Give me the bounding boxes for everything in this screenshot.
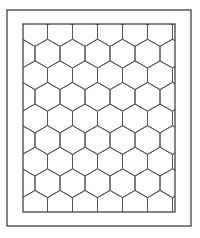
hexagon-cell bbox=[135, 126, 160, 155]
hexagon-cell bbox=[35, 212, 60, 238]
hexagon-cell bbox=[198, 61, 200, 90]
hexagon-cell bbox=[135, 0, 160, 25]
hexagon-cell bbox=[185, 39, 199, 68]
hexagon-cell bbox=[98, 190, 123, 219]
hexagon-tiling-figure bbox=[0, 0, 199, 238]
hexagon-cell bbox=[173, 147, 198, 176]
hexagon-cell bbox=[110, 82, 135, 111]
hexagon-cell bbox=[198, 104, 200, 133]
hexagon-cell bbox=[35, 0, 60, 25]
hexagon-cell bbox=[123, 18, 148, 47]
outer-frame bbox=[7, 10, 191, 226]
hexagon-cell bbox=[85, 0, 110, 25]
hexagon-cell bbox=[148, 190, 173, 219]
hexagon-cell bbox=[160, 169, 185, 198]
hexagon-cell bbox=[110, 126, 135, 155]
hexagon-cell bbox=[0, 190, 23, 219]
hexagon-cell bbox=[110, 169, 135, 198]
hexagon-cell bbox=[48, 147, 73, 176]
hexagon-cell bbox=[148, 234, 173, 238]
hexagon-cell bbox=[135, 82, 160, 111]
hexagon-cell bbox=[0, 234, 23, 238]
hexagon-cell bbox=[198, 190, 200, 219]
hexagon-cell bbox=[185, 212, 199, 238]
hexagon-cell bbox=[60, 169, 85, 198]
hexagon-cell bbox=[110, 39, 135, 68]
hexagon-cell bbox=[185, 169, 199, 198]
hexagon-cell bbox=[48, 18, 73, 47]
hexagon-cell bbox=[60, 0, 85, 25]
hexagon-cell bbox=[23, 61, 48, 90]
hexagon-cell bbox=[23, 147, 48, 176]
hexagon-cell bbox=[23, 190, 48, 219]
hexagon-cell bbox=[35, 126, 60, 155]
hexagon-cell bbox=[148, 61, 173, 90]
hexagon-cell bbox=[73, 61, 98, 90]
hexagon-cell bbox=[60, 212, 85, 238]
hexagon-cell bbox=[60, 82, 85, 111]
hexagon-cell bbox=[98, 147, 123, 176]
hexagon-cell bbox=[160, 126, 185, 155]
hexagon-cell bbox=[123, 234, 148, 238]
hexagon-cell bbox=[160, 0, 185, 25]
hexagon-cell bbox=[23, 234, 48, 238]
hexagon-cell bbox=[48, 190, 73, 219]
hexagon-cell bbox=[148, 147, 173, 176]
hexagon-cell bbox=[23, 18, 48, 47]
hexagon-cell bbox=[148, 104, 173, 133]
hexagon-cell bbox=[148, 18, 173, 47]
hexagon-cell bbox=[48, 234, 73, 238]
hexagon-cell bbox=[185, 82, 199, 111]
hexagon-cell bbox=[198, 147, 200, 176]
hexagon-grid bbox=[0, 0, 199, 238]
hexagon-cell bbox=[135, 39, 160, 68]
hexagon-cell bbox=[185, 0, 199, 25]
hexagon-cell bbox=[35, 82, 60, 111]
hexagon-cell bbox=[23, 104, 48, 133]
hexagon-cell bbox=[173, 190, 198, 219]
hexagon-cell bbox=[110, 212, 135, 238]
hexagon-cell bbox=[123, 104, 148, 133]
hexagon-cell bbox=[0, 104, 23, 133]
hexagon-cell bbox=[48, 61, 73, 90]
hexagon-cell bbox=[123, 61, 148, 90]
hexagon-cell bbox=[160, 212, 185, 238]
hexagon-cell bbox=[123, 147, 148, 176]
hexagon-cell bbox=[198, 18, 200, 47]
hexagon-cell bbox=[173, 234, 198, 238]
hexagon-cell bbox=[35, 169, 60, 198]
hexagon-cell bbox=[123, 190, 148, 219]
hexagon-cell bbox=[98, 61, 123, 90]
hexagon-cell bbox=[85, 169, 110, 198]
hexagon-cell bbox=[73, 104, 98, 133]
hexagon-cell bbox=[48, 104, 73, 133]
hexagon-cell bbox=[135, 212, 160, 238]
hexagon-cell bbox=[85, 212, 110, 238]
hexagon-cell bbox=[160, 82, 185, 111]
hexagon-cell bbox=[98, 18, 123, 47]
hexagon-cell bbox=[160, 39, 185, 68]
hexagon-cell bbox=[173, 61, 198, 90]
hexagon-cell bbox=[73, 18, 98, 47]
hexagon-cell bbox=[98, 104, 123, 133]
hexagon-cell bbox=[73, 234, 98, 238]
hexagon-cell bbox=[35, 39, 60, 68]
hexagon-cell bbox=[185, 126, 199, 155]
hexagon-cell bbox=[85, 126, 110, 155]
hexagon-cell bbox=[0, 147, 23, 176]
hexagon-cell bbox=[198, 234, 200, 238]
hexagon-cell bbox=[173, 104, 198, 133]
hexagon-cell bbox=[0, 18, 23, 47]
hexagon-cell bbox=[73, 147, 98, 176]
hexagon-cell bbox=[98, 234, 123, 238]
hexagon-cell bbox=[10, 212, 35, 238]
hexagon-cell bbox=[110, 0, 135, 25]
hexagon-cell bbox=[60, 39, 85, 68]
hexagon-cell bbox=[173, 18, 198, 47]
hexagon-cell bbox=[73, 190, 98, 219]
hexagon-cell bbox=[85, 82, 110, 111]
hexagon-cell bbox=[10, 0, 35, 25]
hexagon-cell bbox=[60, 126, 85, 155]
hexagon-cell bbox=[135, 169, 160, 198]
hexagon-cell bbox=[85, 39, 110, 68]
